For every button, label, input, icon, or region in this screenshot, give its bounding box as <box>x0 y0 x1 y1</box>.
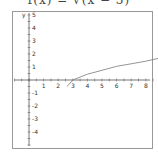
y-tick-label: 4 <box>32 24 36 31</box>
chart-plot: 123456789-4-3-2-112345xy <box>0 0 158 154</box>
y-tick-label: -3 <box>32 115 38 122</box>
y-tick-label: -1 <box>32 89 38 96</box>
y-tick-label: 1 <box>32 63 36 70</box>
x-tick-label: 6 <box>115 82 119 89</box>
axes: 123456789-4-3-2-112345xy <box>14 11 158 146</box>
y-tick-label: 3 <box>32 37 36 44</box>
x-tick-label: 1 <box>42 82 46 89</box>
x-tick-label: 5 <box>100 82 104 89</box>
x-tick-label: 7 <box>129 82 133 89</box>
x-tick-label: 4 <box>85 82 89 89</box>
y-tick-label: 5 <box>32 11 36 18</box>
y-tick-label: -4 <box>32 128 38 135</box>
y-axis-label: y <box>22 11 26 19</box>
x-tick-label: 3 <box>71 82 75 89</box>
x-tick-label: 8 <box>144 82 148 89</box>
x-tick-label: 2 <box>56 82 60 89</box>
y-tick-label: -2 <box>32 102 38 109</box>
y-tick-label: 2 <box>32 50 36 57</box>
